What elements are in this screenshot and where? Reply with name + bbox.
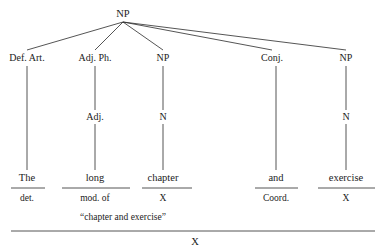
word-and: and <box>266 173 285 184</box>
node-n-right: N <box>340 112 351 122</box>
word-exercise: exercise <box>327 173 365 184</box>
node-np-left: NP <box>155 53 172 63</box>
word-long: long <box>84 173 107 184</box>
node-np-right: NP <box>338 53 355 63</box>
function-det: det. <box>18 194 36 204</box>
function-x-exercise: X <box>341 194 352 204</box>
word-the: The <box>17 173 37 184</box>
node-n-left: N <box>157 112 168 122</box>
function-x-chapter: X <box>158 194 169 204</box>
function-coord: Coord. <box>261 194 291 204</box>
syntax-tree-diagram: NP Def. Art. Adj. Ph. NP Conj. NP Adj. N… <box>0 0 390 250</box>
function-mod-of: mod. of <box>78 194 112 204</box>
tree-lines-svg <box>0 0 390 250</box>
final-function-x: X <box>189 237 201 248</box>
node-def-art: Def. Art. <box>7 53 46 63</box>
quoted-phrase: “chapter and exercise” <box>78 213 168 223</box>
word-chapter: chapter <box>146 173 181 184</box>
node-root-np: NP <box>114 9 131 20</box>
node-adj-ph: Adj. Ph. <box>76 53 113 63</box>
node-conj: Conj. <box>259 53 285 63</box>
branch-root-to-conj <box>123 22 272 50</box>
node-adj: Adj. <box>84 112 106 122</box>
